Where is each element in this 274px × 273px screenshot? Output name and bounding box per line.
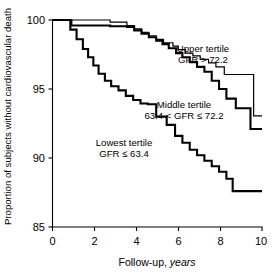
x-tick-label-4: 4 <box>133 235 139 247</box>
annotation-middle-line2: 63.4 < GFR ≤ 72.2 <box>144 110 223 121</box>
x-axis-label: Follow-up, years <box>118 256 196 268</box>
y-axis-label: Proportion of subjects without cardiovas… <box>2 8 13 225</box>
x-axis-ticks <box>53 227 263 231</box>
y-tick-label-100: 100 <box>27 14 45 26</box>
x-tick-label-0: 0 <box>49 235 55 247</box>
annotation-upper-tertile: Upper tertile GFR > 72.2 <box>177 43 229 65</box>
annotation-upper-line1: Upper tertile <box>177 43 229 54</box>
y-tick-label-95: 95 <box>33 83 45 95</box>
y-tick-label-90: 90 <box>33 152 45 164</box>
x-tick-label-8: 8 <box>217 235 223 247</box>
x-axis-tick-labels: 0 2 4 6 8 10 <box>49 235 267 247</box>
x-axis-label-italic: years <box>169 256 196 268</box>
annotation-middle-tertile: Middle tertile 63.4 < GFR ≤ 72.2 <box>144 99 223 121</box>
x-tick-label-6: 6 <box>175 235 181 247</box>
annotation-lowest-tertile: Lowest tertile GFR ≤ 63.4 <box>96 137 153 159</box>
kaplan-meier-figure: Proportion of subjects without cardiovas… <box>0 0 274 273</box>
x-axis-label-plain: Follow-up, <box>118 256 169 268</box>
annotation-lowest-line1: Lowest tertile <box>96 137 153 148</box>
x-tick-label-2: 2 <box>91 235 97 247</box>
y-tick-label-85: 85 <box>33 221 45 233</box>
x-tick-label-10: 10 <box>255 235 267 247</box>
survival-chart-svg: Proportion of subjects without cardiovas… <box>0 0 274 273</box>
y-axis-ticks <box>49 20 53 227</box>
annotation-middle-line1: Middle tertile <box>157 99 211 110</box>
annotation-upper-line2: GFR > 72.2 <box>178 54 228 65</box>
y-axis-tick-labels: 85 90 95 100 <box>27 14 45 233</box>
annotation-lowest-line2: GFR ≤ 63.4 <box>99 148 149 159</box>
